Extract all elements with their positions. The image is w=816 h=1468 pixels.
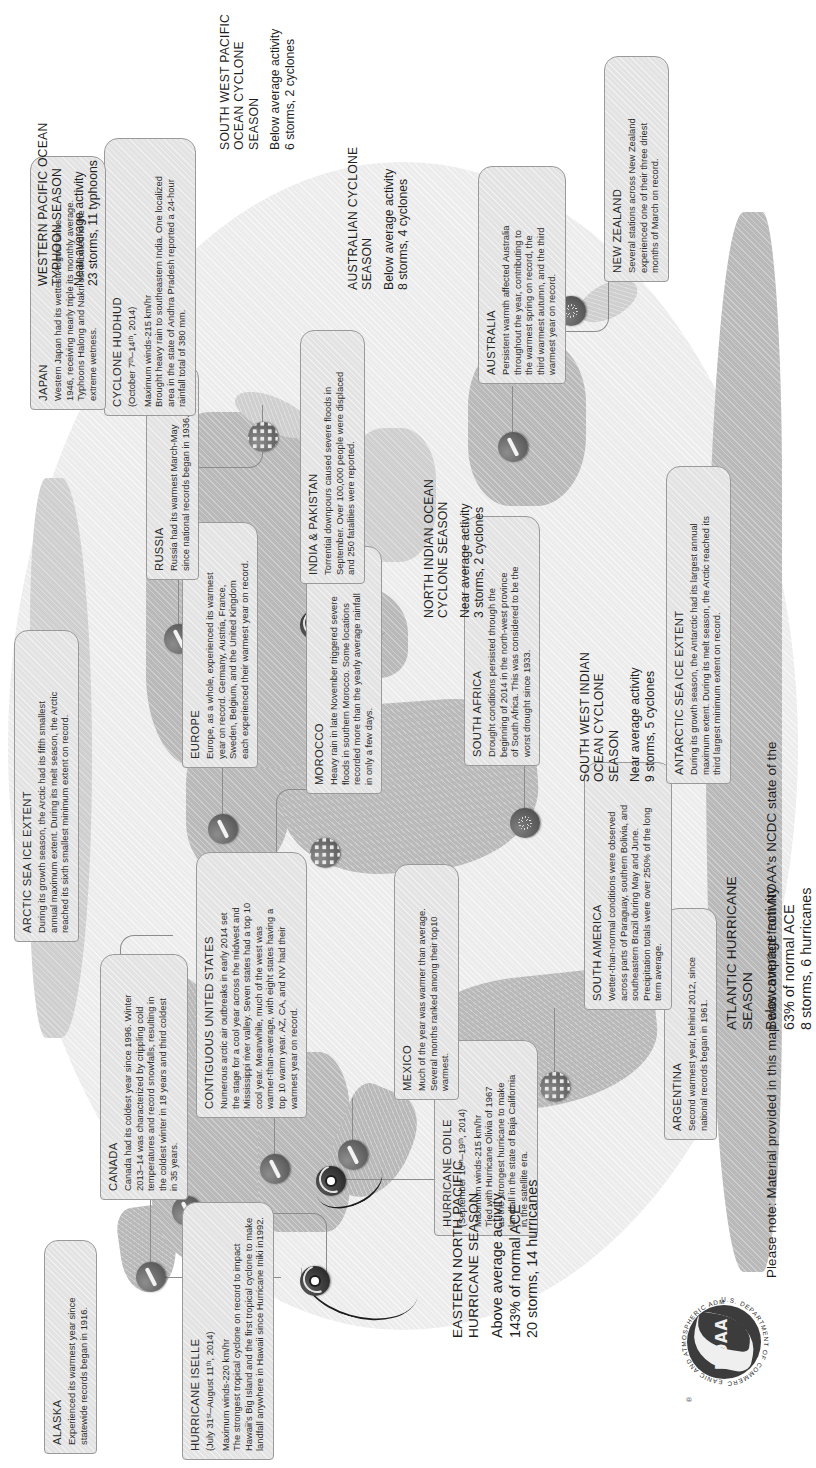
callout-mexico[interactable]: MEXICO Much of the year was warmer than … — [394, 864, 459, 1100]
cyclone-marker-odile[interactable] — [316, 1166, 346, 1196]
temperature-marker-australia[interactable] — [498, 432, 528, 462]
season-title: ATLANTIC HURRICANE SEASON — [724, 800, 756, 1030]
callout-title: HURRICANE ISELLE — [189, 1211, 201, 1451]
callout-title: CYCLONE HUDHUD — [111, 147, 123, 407]
callout-morocco[interactable]: MOROCCO Heavy rain in late November trig… — [306, 546, 382, 794]
callout-body: Europe, as a whole, experienced its warm… — [204, 531, 250, 759]
callout-cyclone-hudhud[interactable]: CYCLONE HUDHUD (October 7ᵗʰ–14ᵗʰ, 2014) … — [104, 138, 196, 416]
callout-title: NEW ZEALAND — [611, 65, 623, 273]
temperature-marker-contiguous-us[interactable] — [260, 1154, 290, 1184]
rain-marker-south-america[interactable] — [540, 1072, 570, 1102]
callout-hurricane-iselle[interactable]: HURRICANE ISELLE (July 31ˢᵗ–August 11ᵗʰ,… — [182, 1202, 274, 1460]
callout-title: CONTIGUOUS UNITED STATES — [203, 861, 215, 1109]
callout-body: Numerous arctic air outbreaks in early 2… — [218, 861, 299, 1109]
temperature-marker-europe[interactable] — [208, 814, 238, 844]
callout-japan[interactable]: JAPAN Western Japan had its wettest Augu… — [30, 156, 106, 410]
callout-subtitle: (July 31ˢᵗ–August 11ᵗʰ, 2014) — [204, 1211, 216, 1451]
season-value: Near average activity 9 storms, 5 cyclon… — [628, 574, 657, 782]
season-value: Below average activity 6 storms, 2 cyclo… — [268, 0, 297, 150]
callout-body: Torrential downpours caused severe flood… — [322, 339, 357, 575]
callout-south-africa[interactable]: SOUTH AFRICA Drought conditions persiste… — [464, 516, 540, 766]
season-title: SOUTH WEST PACIFIC OCEAN CYCLONE SEASON — [218, 0, 261, 150]
callout-title: CANADA — [107, 963, 119, 1191]
callout-body: Drought conditions persisted through the… — [486, 525, 532, 757]
callout-argentina[interactable]: ARGENTINA Second warmest year, behind 20… — [664, 908, 717, 1140]
callout-alaska[interactable]: ALASKA Experienced its warmest year sinc… — [44, 1240, 97, 1454]
callout-title: MOROCCO — [313, 555, 325, 785]
callout-india-pakistan[interactable]: INDIA & PAKISTAN Torrential downpours ca… — [300, 330, 365, 584]
callout-body: Canada had its coldest year since 1996. … — [122, 963, 180, 1191]
callout-title: ARGENTINA — [671, 917, 683, 1131]
callout-body: During its growth season, the Antarctic … — [688, 475, 723, 775]
callout-title: SOUTH AFRICA — [471, 525, 483, 757]
callout-title: ARCTIC SEA ICE EXTENT — [21, 639, 33, 933]
callout-europe[interactable]: EUROPE Europe, as a whole, experienced i… — [182, 522, 258, 768]
temperature-marker-alaska[interactable] — [136, 1262, 166, 1292]
rain-marker-japan[interactable] — [248, 422, 278, 452]
callout-canada[interactable]: CANADA Canada had its coldest year since… — [100, 954, 188, 1200]
noaa-wordmark: NOAA — [713, 1324, 731, 1370]
callout-body: Several stations across New Zealand expe… — [626, 65, 661, 273]
footer-note: Please note: Material provided in this m… — [764, 742, 779, 1279]
drought-marker-south-africa[interactable] — [510, 808, 540, 838]
callout-new-zealand[interactable]: NEW ZEALAND Several stations across New … — [604, 56, 669, 282]
season-title: SOUTH WEST INDIAN OCEAN CYCLONE SEASON — [578, 574, 621, 782]
season-title: NORTH INDIAN OCEAN CYCLONE SEASON — [422, 404, 451, 618]
callout-body: Experienced its warmest year since state… — [66, 1249, 89, 1445]
callout-south-america[interactable]: SOUTH AMERICA Wetter-than-normal conditi… — [584, 762, 672, 1010]
callout-body: Heavy rain in late November triggered se… — [328, 555, 374, 785]
callout-subtitle: (October 7ᵗʰ–14ᵗʰ, 2014) — [126, 147, 138, 407]
rain-marker-morocco[interactable] — [310, 838, 340, 868]
registered-mark: ® — [686, 1397, 693, 1402]
callout-body: Wetter-than-normal conditions were obser… — [606, 771, 664, 1001]
callout-body: During its growth season, the Arctic had… — [36, 639, 71, 933]
callout-antarctic-sea-ice-extent[interactable]: ANTARCTIC SEA ICE EXTENT During its grow… — [666, 466, 731, 784]
callout-title: ANTARCTIC SEA ICE EXTENT — [673, 475, 685, 775]
noaa-seal-disc: NOAA — [687, 1305, 761, 1379]
temperature-marker-mexico[interactable] — [338, 1140, 368, 1170]
season-south-west-indian-ocean-cyclone-season: SOUTH WEST INDIAN OCEAN CYCLONE SEASON N… — [578, 574, 657, 782]
callout-body: Maximum winds-215 km/hr Tied with Hurric… — [472, 1049, 530, 1227]
callout-body: Second warmest year, behind 2012, since … — [686, 917, 709, 1131]
season-south-west-pacific-ocean-cyclone-season: SOUTH WEST PACIFIC OCEAN CYCLONE SEASON … — [218, 0, 297, 150]
callout-title: SOUTH AMERICA — [591, 771, 603, 1001]
callout-body: Much of the year was warmer than average… — [416, 873, 451, 1091]
callout-body: Western Japan had its wettest August sin… — [52, 165, 98, 401]
season-title: AUSTRALIAN CYCLONE SEASON — [346, 78, 375, 290]
callout-body: Persistent warmth affected Australia thr… — [500, 175, 558, 375]
cyclone-marker-iselle[interactable] — [300, 1266, 330, 1296]
season-value: Below average activity 8 storms, 4 cyclo… — [382, 78, 411, 290]
callout-body: Maximum winds-220 km/hr The strongest tr… — [220, 1211, 266, 1451]
callout-arctic-sea-ice-extent[interactable]: ARCTIC SEA ICE EXTENT During its growth … — [14, 630, 79, 942]
callout-title: INDIA & PAKISTAN — [307, 339, 319, 575]
callout-title: MEXICO — [401, 873, 413, 1091]
noaa-seal: NATIONAL OCEANIC AND ATMOSPHERIC ADMINIS… — [676, 1294, 772, 1390]
callout-contiguous-united-states[interactable]: CONTIGUOUS UNITED STATES Numerous arctic… — [196, 852, 307, 1118]
callout-title: ALASKA — [51, 1249, 63, 1445]
callout-body: Maximum winds-215 km/hr Brought heavy ra… — [142, 147, 188, 407]
callout-australia[interactable]: AUSTRALIA Persistent warmth affected Aus… — [478, 166, 566, 384]
callout-subtitle: (September 10ᵗʰ–19ᵗʰ, 2014) — [456, 1049, 468, 1227]
callout-title: JAPAN — [37, 165, 49, 401]
season-australian-cyclone-season: AUSTRALIAN CYCLONE SEASON Below average … — [346, 78, 411, 290]
callout-title: AUSTRALIA — [485, 175, 497, 375]
